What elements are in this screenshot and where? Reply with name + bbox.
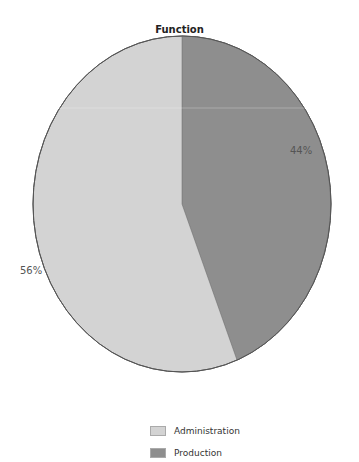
- legend-label: Production: [174, 448, 222, 458]
- legend: Administration Production: [150, 420, 240, 462]
- legend-label: Administration: [174, 426, 240, 436]
- legend-item-administration: Administration: [150, 420, 240, 442]
- label-production-pct: 44%: [290, 145, 312, 156]
- label-administration-pct: 56%: [20, 265, 42, 276]
- legend-swatch-production: [150, 448, 166, 458]
- legend-swatch-administration: [150, 426, 166, 436]
- legend-item-production: Production: [150, 442, 240, 462]
